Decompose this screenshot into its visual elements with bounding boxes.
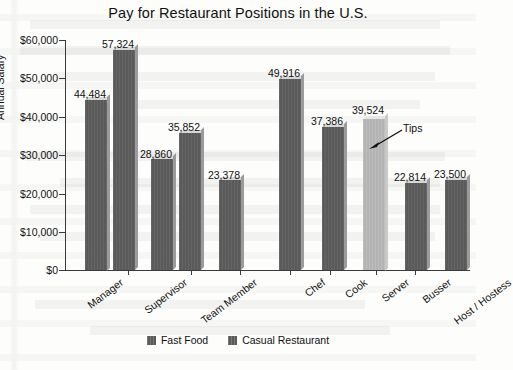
value-label-supervisor-casual-restaurant: 35,852 [154, 121, 214, 133]
legend-label-casual-restaurant: Casual Restaurant [242, 334, 329, 346]
y-tick-label: $30,000 [2, 149, 58, 161]
tips-annotation-label: Tips [403, 122, 422, 134]
value-label-team-member-fast-food: 23,378 [194, 169, 254, 181]
bar-side-face [467, 174, 470, 270]
y-tick-label: $40,000 [2, 111, 58, 123]
bar-side-face [344, 121, 347, 270]
bar-supervisor-fast-food[interactable] [151, 159, 173, 270]
legend-label-fast-food: Fast Food [161, 334, 208, 346]
value-label-supervisor-fast-food: 28,860 [126, 148, 186, 160]
bar-side-face [241, 174, 244, 270]
value-label-chef-casual-restaurant: 49,916 [254, 67, 314, 79]
bar-side-face [301, 73, 304, 270]
value-label-cook-casual-restaurant: 37,386 [297, 115, 357, 127]
legend-item-casual-restaurant[interactable]: Casual Restaurant [228, 334, 329, 346]
bar-side-face [173, 153, 176, 270]
chart-legend: Fast Food Casual Restaurant [0, 334, 476, 346]
y-tick-label: $10,000 [2, 226, 58, 238]
tips-arrow-icon [366, 128, 404, 150]
legend-swatch-icon [147, 336, 156, 345]
value-label-host-hostess-casual-restaurant: 23,500 [420, 168, 480, 180]
bar-side-face [427, 177, 430, 270]
bar-host-hostess-casual-restaurant[interactable] [445, 180, 467, 270]
value-label-server-casual-restaurant: 39,524 [338, 104, 398, 116]
legend-swatch-icon [228, 336, 237, 345]
bar-side-face [201, 127, 204, 270]
y-tick-label: $0 [2, 264, 58, 276]
value-label-manager-casual-restaurant: 57,324 [88, 38, 148, 50]
bar-manager-fast-food[interactable] [85, 100, 107, 271]
bar-manager-casual-restaurant[interactable] [113, 50, 135, 270]
y-tick-label: $60,000 [2, 34, 58, 46]
bar-cook-casual-restaurant[interactable] [322, 127, 344, 270]
bar-busser-casual-restaurant[interactable] [405, 183, 427, 270]
y-tick-label: $50,000 [2, 72, 58, 84]
value-label-manager-fast-food: 44,484 [60, 88, 120, 100]
bar-team-member-fast-food[interactable] [219, 180, 241, 270]
y-tick-label: $20,000 [2, 188, 58, 200]
legend-item-fast-food[interactable]: Fast Food [147, 334, 208, 346]
bar-side-face [107, 94, 110, 271]
bar-chef-casual-restaurant[interactable] [279, 79, 301, 270]
